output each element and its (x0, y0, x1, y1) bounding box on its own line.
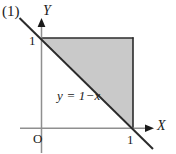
y-axis-arrowhead (38, 18, 46, 27)
math-figure: (1) Y X O 1 1 y = 1−x (0, 0, 176, 154)
x-axis-label: X (157, 119, 166, 133)
y-axis-tick-label-1: 1 (29, 34, 36, 47)
line-equation-label: y = 1−x (57, 89, 101, 102)
origin-label: O (33, 132, 42, 145)
x-axis-arrowhead (145, 124, 154, 132)
y-axis-label: Y (43, 4, 51, 18)
x-axis-tick-label-1: 1 (127, 133, 134, 146)
item-number-label: (1) (2, 4, 20, 19)
figure-canvas (0, 0, 176, 154)
shaded-region (42, 38, 134, 128)
